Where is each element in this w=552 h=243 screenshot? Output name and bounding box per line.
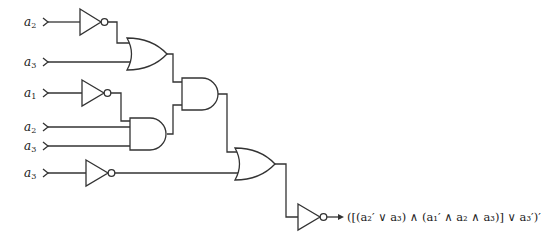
- input-label-a2-top: a2: [24, 15, 36, 30]
- input-label-a3-top: a3: [24, 55, 36, 70]
- svg-text:a2: a2: [24, 120, 36, 135]
- wires: [48, 22, 344, 220]
- input-label-a1: a1: [24, 86, 36, 101]
- logic-circuit-diagram: a2 a3 a1 a2 a3 a3: [0, 0, 552, 243]
- not-gate-2: [82, 80, 111, 106]
- svg-text:a3: a3: [24, 55, 36, 70]
- or-gate-2: [235, 148, 275, 180]
- svg-text:a1: a1: [24, 86, 36, 101]
- or-gate-1: [127, 38, 167, 70]
- svg-text:a3: a3: [24, 166, 36, 181]
- input-label-a2-mid: a2: [24, 120, 36, 135]
- not-gate-1: [80, 9, 108, 35]
- input-label-a3-bottom: a3: [24, 166, 36, 181]
- output-expression: ([(a₂′ ∨ a₃) ∧ (a₁′ ∧ a₂ ∧ a₃)] ∨ a₃′)′: [347, 210, 541, 224]
- and-gate-1: [182, 78, 218, 110]
- input-chevrons: [43, 18, 48, 177]
- not-gate-4: [298, 204, 327, 230]
- svg-text:a3: a3: [24, 139, 36, 154]
- output-arrow-icon: [338, 214, 344, 220]
- and-gate-2: [130, 118, 166, 150]
- input-label-a3-mid: a3: [24, 139, 36, 154]
- not-gate-3: [86, 160, 115, 186]
- svg-text:a2: a2: [24, 15, 36, 30]
